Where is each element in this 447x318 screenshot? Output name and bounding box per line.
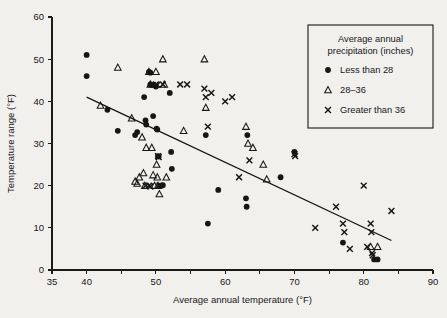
data-point bbox=[134, 129, 140, 135]
data-point bbox=[341, 229, 347, 235]
data-point bbox=[361, 183, 367, 189]
data-point bbox=[160, 82, 166, 88]
data-point bbox=[153, 161, 160, 167]
data-point bbox=[263, 176, 270, 182]
legend-title-line1: Average annual bbox=[338, 34, 403, 44]
data-point bbox=[156, 191, 163, 197]
x-tick-label: 80 bbox=[358, 276, 369, 287]
data-point bbox=[245, 140, 252, 146]
data-point bbox=[243, 195, 249, 201]
data-point bbox=[168, 149, 174, 155]
data-point bbox=[141, 94, 147, 100]
data-point bbox=[247, 157, 253, 163]
scatter-chart: 0102030405060 35405060708090 Average ann… bbox=[0, 0, 447, 318]
data-point bbox=[244, 132, 250, 138]
y-tick-label: 30 bbox=[33, 138, 44, 149]
x-tick-label: 35 bbox=[47, 276, 58, 287]
data-point bbox=[208, 90, 214, 96]
data-point bbox=[180, 127, 187, 133]
x-tick-label: 50 bbox=[151, 276, 162, 287]
data-point bbox=[243, 123, 250, 129]
data-point bbox=[205, 221, 211, 227]
data-point bbox=[114, 64, 121, 70]
x-tick-label: 70 bbox=[289, 276, 300, 287]
x-axis-ticks: 35405060708090 bbox=[47, 270, 439, 287]
data-point bbox=[202, 104, 209, 110]
data-point bbox=[143, 122, 149, 128]
data-point bbox=[134, 180, 141, 186]
data-point bbox=[169, 166, 175, 172]
data-point bbox=[340, 221, 346, 227]
data-point bbox=[215, 187, 221, 193]
legend-label: 28–36 bbox=[340, 85, 366, 95]
data-point bbox=[140, 170, 147, 176]
data-point bbox=[368, 221, 374, 227]
data-point bbox=[139, 134, 146, 140]
y-tick-label: 20 bbox=[33, 180, 44, 191]
data-point bbox=[115, 128, 121, 134]
legend-label: Less than 28 bbox=[340, 65, 393, 75]
data-point bbox=[312, 225, 318, 231]
legend-title-line2: precipitation (inches) bbox=[328, 46, 414, 56]
x-tick-label: 40 bbox=[81, 276, 92, 287]
data-point bbox=[84, 73, 90, 79]
y-tick-label: 0 bbox=[39, 264, 44, 275]
data-point bbox=[148, 144, 155, 150]
data-point bbox=[184, 82, 190, 88]
y-axis-title: Temperature range (°F) bbox=[5, 94, 16, 193]
data-point bbox=[177, 82, 183, 88]
data-point bbox=[347, 246, 353, 252]
data-point bbox=[374, 243, 381, 249]
y-tick-label: 10 bbox=[33, 222, 44, 233]
data-point bbox=[229, 94, 235, 100]
data-point bbox=[278, 174, 284, 180]
y-tick-label: 50 bbox=[33, 54, 44, 65]
data-point bbox=[105, 107, 111, 113]
data-point bbox=[84, 52, 90, 58]
x-tick-label: 90 bbox=[428, 276, 439, 287]
data-point bbox=[167, 90, 173, 96]
legend: Average annualprecipitation (inches)Less… bbox=[308, 25, 433, 128]
chart-canvas: 0102030405060 35405060708090 Average ann… bbox=[0, 0, 447, 318]
x-tick-label: 60 bbox=[220, 276, 231, 287]
legend-label: Greater than 36 bbox=[340, 105, 405, 115]
data-point bbox=[153, 68, 160, 74]
data-point bbox=[136, 174, 143, 180]
data-point bbox=[333, 204, 339, 210]
data-point bbox=[236, 174, 242, 180]
data-point bbox=[203, 132, 209, 138]
legend-marker-circle bbox=[325, 67, 331, 73]
x-axis-title: Average annual temperature (°F) bbox=[173, 294, 312, 305]
data-point bbox=[163, 174, 170, 180]
data-point bbox=[260, 161, 267, 167]
y-tick-label: 60 bbox=[33, 11, 44, 22]
data-point bbox=[203, 94, 209, 100]
data-point bbox=[389, 208, 395, 214]
data-point bbox=[244, 204, 250, 210]
data-point bbox=[150, 113, 156, 119]
data-point bbox=[222, 98, 228, 104]
data-point bbox=[201, 56, 208, 62]
data-point bbox=[160, 56, 167, 62]
y-axis-ticks: 0102030405060 bbox=[33, 11, 52, 275]
data-point bbox=[154, 127, 160, 133]
data-point bbox=[205, 124, 211, 130]
data-point bbox=[202, 86, 208, 92]
data-point bbox=[340, 240, 346, 246]
y-tick-label: 40 bbox=[33, 96, 44, 107]
